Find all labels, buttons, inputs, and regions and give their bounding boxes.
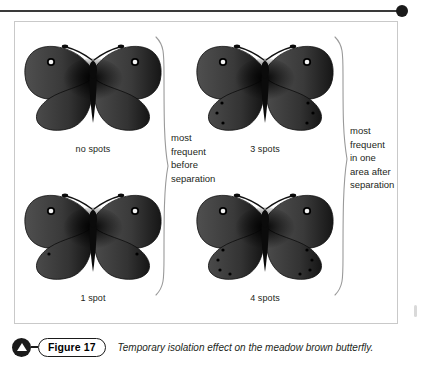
butterfly-illustration-1-spot xyxy=(18,184,168,292)
figure-number-badge: Figure 17 xyxy=(38,338,106,357)
top-divider-dot xyxy=(396,5,408,17)
specimen-label: 1 spot xyxy=(18,293,168,304)
page-edge-mark xyxy=(414,305,417,317)
specimen-label: no spots xyxy=(18,144,168,155)
top-divider-rule xyxy=(0,10,398,12)
specimen-cell-no-spots: no spots xyxy=(18,35,168,155)
specimen-cell-4-spots: 4 spots xyxy=(190,184,340,304)
caption-text: Temporary isolation effect on the meadow… xyxy=(118,342,374,353)
caption-connector-line xyxy=(31,346,38,348)
brace-right-icon xyxy=(332,35,348,297)
bracket-annotation-right: most frequent in one area after separati… xyxy=(350,124,422,192)
butterfly-illustration-no-spots xyxy=(18,35,168,143)
butterfly-illustration-4-spots xyxy=(190,184,340,292)
specimen-label: 4 spots xyxy=(190,293,340,304)
bracket-annotation-left: most frequent before separation xyxy=(171,131,241,185)
butterfly-illustration-3-spots xyxy=(190,35,340,143)
specimen-cell-1-spot: 1 spot xyxy=(18,184,168,304)
figure-caption: Figure 17 Temporary isolation effect on … xyxy=(12,336,373,358)
brace-left-icon xyxy=(153,35,169,297)
triangle-up-icon xyxy=(12,338,31,357)
